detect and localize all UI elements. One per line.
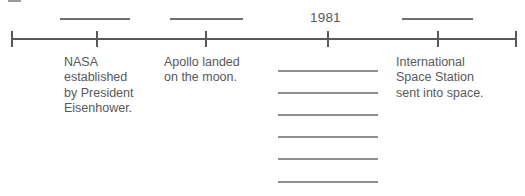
timeline-tick-3: [205, 31, 207, 47]
answer-rule-3[interactable]: [278, 114, 378, 116]
timeline-tick-4: [327, 31, 329, 47]
timeline-tick-2: [96, 31, 98, 47]
date-slot-2-rule[interactable]: [170, 18, 243, 20]
answer-rule-5[interactable]: [278, 158, 378, 160]
event-caption-apollo: Apollo landed on the moon.: [164, 55, 269, 86]
date-slot-4-rule[interactable]: [402, 18, 473, 20]
event-caption-international-space-station: International Space Station sent into sp…: [396, 55, 516, 101]
answer-rule-6[interactable]: [278, 181, 378, 183]
date-slot-1-rule[interactable]: [60, 18, 130, 20]
event-caption-nasa: NASA established by President Eisenhower…: [64, 55, 156, 117]
answer-rule-2[interactable]: [278, 92, 378, 94]
answer-rule-4[interactable]: [278, 136, 378, 138]
timeline-worksheet: 1981 NASA established by President Eisen…: [0, 0, 525, 196]
timeline-tick-5: [437, 31, 439, 47]
timeline-axis: [11, 38, 517, 40]
timeline-axis-start-cap: [11, 31, 13, 47]
answer-rule-1[interactable]: [278, 70, 378, 72]
stray-mark-top-left: [8, 0, 21, 2]
date-slot-3-label: 1981: [310, 10, 341, 25]
timeline-axis-end-cap: [515, 31, 517, 47]
